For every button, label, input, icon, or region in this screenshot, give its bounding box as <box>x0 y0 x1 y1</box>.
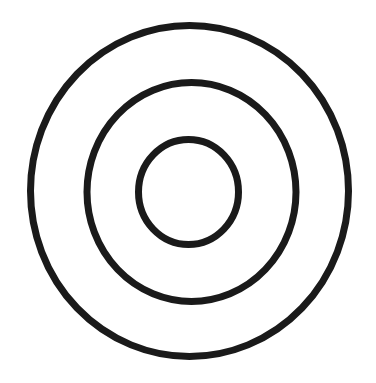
background <box>0 0 376 383</box>
concentric-circles-diagram <box>0 0 376 383</box>
